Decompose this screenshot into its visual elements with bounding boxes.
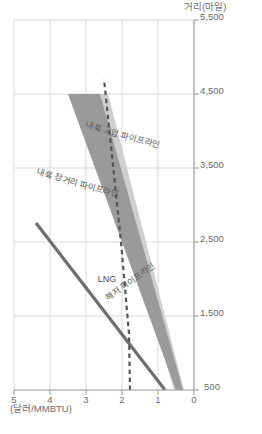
x-tick-marks bbox=[194, 20, 199, 390]
y-tick-label-2: 2 bbox=[119, 394, 124, 405]
chart-svg: 500 1,500 2,500 3,500 4,500 5,500 0 1 2 … bbox=[0, 0, 262, 434]
chart-figure: 500 1,500 2,500 3,500 4,500 5,500 0 1 2 … bbox=[0, 0, 262, 434]
y-tick-label-1: 1 bbox=[155, 394, 160, 405]
x-axis-title: 거리(마일) bbox=[184, 1, 226, 12]
y-axis-title: (달러/MMBTU) bbox=[10, 403, 72, 414]
x-tick-label-2: 2,500 bbox=[200, 233, 224, 244]
y-tick-label-0: 0 bbox=[191, 394, 196, 405]
annotation-lng: LNG bbox=[98, 274, 117, 284]
y-tick-label-3: 3 bbox=[83, 394, 88, 405]
chart-rotated-container: 500 1,500 2,500 3,500 4,500 5,500 0 1 2 … bbox=[0, 0, 262, 434]
x-tick-label-3: 3,500 bbox=[200, 159, 224, 170]
x-tick-label-0: 500 bbox=[204, 381, 220, 392]
y-tick-marks bbox=[14, 390, 194, 395]
x-tick-label-5: 5,500 bbox=[200, 11, 224, 22]
x-tick-labels: 500 1,500 2,500 3,500 4,500 5,500 bbox=[200, 11, 224, 392]
x-tick-label-4: 4,500 bbox=[200, 85, 224, 96]
x-tick-label-1: 1,500 bbox=[200, 307, 224, 318]
